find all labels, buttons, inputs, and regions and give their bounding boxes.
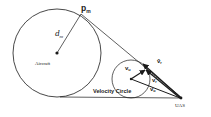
v-u-label: vu bbox=[125, 65, 131, 72]
v-hat-r-arrow bbox=[143, 64, 180, 97]
v-r-arrow bbox=[146, 70, 180, 98]
velocity-circle-label: Velocity Circle bbox=[93, 88, 131, 94]
dm-label: dm bbox=[55, 28, 64, 39]
uas-label: UAS bbox=[175, 103, 185, 108]
velocity-circle-center-dot bbox=[130, 78, 132, 80]
v-u-arrow bbox=[131, 70, 145, 79]
diagram-canvas: pm dm Aircraft v̂r vu vr vo Velocity Cir… bbox=[0, 0, 211, 117]
uas-dot bbox=[180, 97, 183, 100]
v-o-label: vo bbox=[150, 86, 156, 93]
lower-tangent-line bbox=[60, 97, 182, 98]
pm-label: pm bbox=[81, 3, 91, 14]
v-hat-r-label: v̂r bbox=[157, 58, 163, 65]
aircraft-label: Aircraft bbox=[35, 61, 51, 66]
